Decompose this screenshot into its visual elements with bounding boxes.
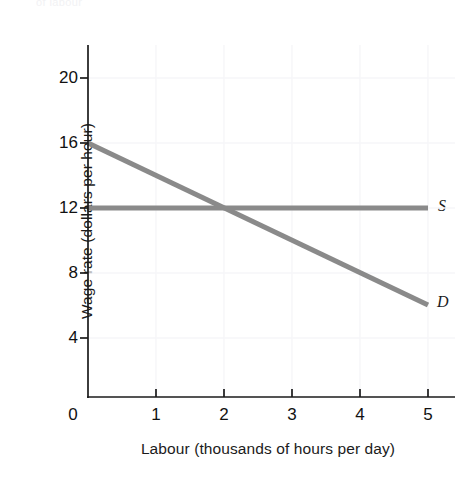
- y-axis-ticks: [80, 78, 88, 338]
- demand-curve: [88, 143, 428, 305]
- gridlines: [88, 45, 455, 397]
- economics-labour-market-figure: of labour Wage rate (dollars per hour) L…: [0, 0, 467, 477]
- plot-canvas: [0, 0, 467, 477]
- axis-lines: [87, 45, 455, 398]
- x-axis-ticks: [156, 389, 428, 397]
